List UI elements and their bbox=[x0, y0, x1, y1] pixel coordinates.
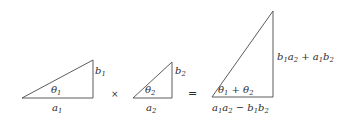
triangle-1-vertical-label: b1 bbox=[95, 66, 106, 78]
triangle-1-base-label: a1 bbox=[52, 103, 62, 115]
triangle-2-vertical-label: b2 bbox=[175, 66, 186, 78]
triangle-3-base-label: a1a2 − b1b2 bbox=[212, 103, 269, 115]
equals-operator: = bbox=[188, 88, 197, 99]
triangle-3-vertical-label: b1a2 + a1b2 bbox=[277, 52, 334, 64]
triangle-3-angle-label: θ1 + θ2 bbox=[218, 85, 253, 97]
multiplication-operator: × bbox=[111, 90, 119, 99]
triangle-2-base-label: a2 bbox=[146, 103, 156, 115]
triangle-2-angle-label: θ2 bbox=[145, 85, 155, 97]
math-figure: θ1 b1 a1 × θ2 b2 a2 = θ1 + θ2 b1a2 + a1b… bbox=[0, 0, 357, 125]
triangle-1-angle-label: θ1 bbox=[51, 85, 61, 97]
